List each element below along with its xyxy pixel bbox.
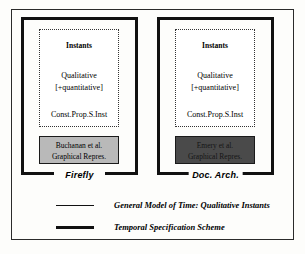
model-constraint-label: Const.Prop.S.Inst xyxy=(40,110,118,120)
legend-swatch-thick-line-icon xyxy=(56,226,94,229)
model-box-doc-arch: Instants Qualitative [+quantitative] Con… xyxy=(175,29,255,127)
legend-swatch-thin-line-icon xyxy=(56,205,94,206)
legend-entry-general-model: General Model of Time: Qualitative Insta… xyxy=(56,196,291,214)
system-label-doc-arch: Doc. Arch. xyxy=(188,169,243,181)
implementation-representation-label: Graphical Repres. xyxy=(40,151,118,162)
implementation-box-firefly: Buchanan et al. Graphical Repres. xyxy=(39,136,119,164)
implementation-box-doc-arch: Emery et al. Graphical Repres. xyxy=(175,136,255,164)
diagram-figure: Firefly Instants Qualitative [+quantitat… xyxy=(0,0,305,254)
system-label-firefly: Firefly xyxy=(61,169,97,181)
legend-label-general-model: General Model of Time: Qualitative Insta… xyxy=(114,200,270,210)
model-instants-label: Instants xyxy=(40,41,118,51)
model-constraint-label: Const.Prop.S.Inst xyxy=(176,110,254,120)
system-border-stub-right xyxy=(241,172,271,175)
legend-label-temporal-spec: Temporal Specification Scheme xyxy=(114,222,225,232)
model-quantitative-label: [+quantitative] xyxy=(176,83,254,93)
model-quantitative-label: [+quantitative] xyxy=(40,83,118,93)
implementation-representation-label: Graphical Repres. xyxy=(176,151,254,162)
model-instants-label: Instants xyxy=(176,41,254,51)
implementation-author-label: Buchanan et al. xyxy=(40,140,118,151)
model-qualitative-label: Qualitative xyxy=(176,71,254,81)
system-border-stub-left xyxy=(24,172,54,175)
model-box-firefly: Instants Qualitative [+quantitative] Con… xyxy=(39,29,119,127)
implementation-author-label: Emery et al. xyxy=(176,140,254,151)
model-qualitative-label: Qualitative xyxy=(40,71,118,81)
system-border-stub-right xyxy=(105,172,135,175)
legend-entry-temporal-spec: Temporal Specification Scheme xyxy=(56,218,291,236)
system-border-stub-left xyxy=(160,172,190,175)
